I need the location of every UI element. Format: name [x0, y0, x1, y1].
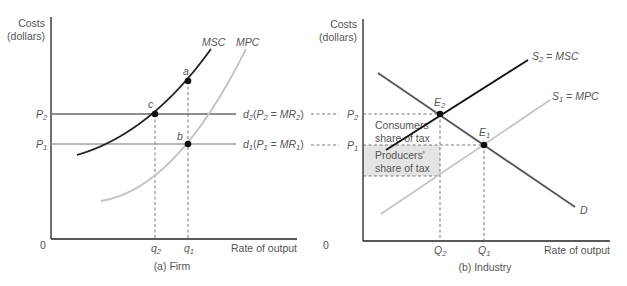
d2-label: d2(P2 = MR2) — [243, 108, 304, 122]
panel-a-q2-tick: q2 — [151, 242, 162, 256]
point-a — [185, 78, 192, 85]
panel-b-ylabel-line1: Costs — [330, 18, 357, 30]
point-e1 — [481, 142, 488, 149]
panel-a-caption: (a) Firm — [154, 260, 191, 272]
panel-a-origin: 0 — [40, 239, 46, 251]
panel-a-q1-tick: q1 — [184, 242, 194, 256]
point-b-label: b — [177, 130, 183, 142]
consumers-share-line1: Consumers' — [375, 119, 431, 131]
panel-b-p1-tick: P1 — [347, 139, 358, 153]
s1-label: S1 = MPC — [552, 90, 599, 104]
panel-b-p2-tick: P2 — [347, 108, 359, 122]
e2-label: E2 — [434, 96, 446, 110]
point-b — [185, 141, 192, 148]
panel-b-industry: Costs (dollars) Consumers' share of tax … — [319, 18, 610, 273]
point-c-label: c — [148, 98, 154, 110]
msc-label: MSC — [202, 36, 226, 48]
externality-tax-figure: Costs (dollars) a c b MSC MPC P2 P1 d2(P… — [0, 0, 627, 286]
s2-msc-line — [386, 60, 528, 150]
panel-b-q1-tick: Q1 — [478, 244, 490, 258]
panel-b-caption: (b) Industry — [458, 261, 512, 273]
panel-a-ylabel-line1: Costs — [18, 17, 45, 29]
mpc-label: MPC — [236, 36, 260, 48]
producers-share-line2: share of tax — [375, 162, 431, 174]
panel-a-ylabel-line2: (dollars) — [7, 30, 45, 42]
point-a-label: a — [183, 65, 189, 77]
panel-a-firm: Costs (dollars) a c b MSC MPC P2 P1 d2(P… — [7, 17, 304, 272]
panel-a-p1-tick: P1 — [36, 138, 47, 152]
point-e2 — [437, 111, 444, 118]
s2-label: S2 = MSC — [532, 50, 579, 64]
panel-b-q2-tick: Q2 — [434, 244, 447, 258]
panel-b-origin: 0 — [323, 239, 329, 251]
e1-label: E1 — [479, 126, 490, 140]
mpc-curve — [101, 49, 246, 201]
producers-share-line1: Producers' — [375, 149, 425, 161]
consumers-share-line2: share of tax — [375, 132, 431, 144]
d1-label: d1(P1 = MR1) — [243, 138, 304, 152]
panel-a-xlabel: Rate of output — [231, 242, 297, 254]
demand-label: D — [580, 204, 588, 216]
panel-b-ylabel-line2: (dollars) — [319, 31, 357, 43]
panel-b-xlabel: Rate of output — [544, 244, 610, 256]
point-c — [152, 111, 159, 118]
panel-a-p2-tick: P2 — [36, 108, 48, 122]
